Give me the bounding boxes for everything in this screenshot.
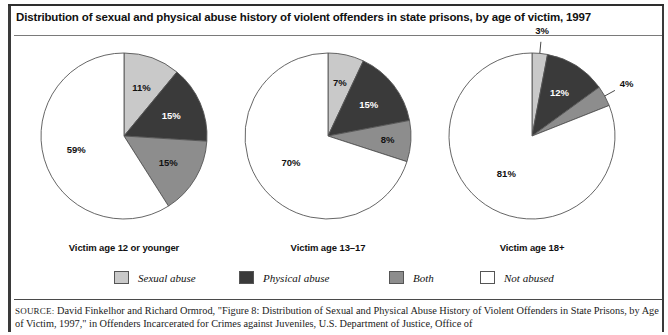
pie-svg-0: 11%15%15%59% [38, 50, 210, 222]
legend-label-both: Both [413, 272, 434, 284]
legend-swatch-not-abused [480, 271, 495, 284]
pie-panel-age-18-plus: 3%12%4%81% Victim age 18+ [432, 46, 632, 261]
pie-chart-age-13-17: 7%15%8%70% [242, 50, 414, 222]
frame-rule-top [8, 4, 664, 6]
pie-chart-age-12-or-younger: 11%15%15%59% [38, 50, 210, 222]
legend-item-physical-abuse: Physical abuse [239, 268, 329, 286]
figure-title: Distribution of sexual and physical abus… [16, 11, 656, 23]
pie-slice-label: 59% [67, 144, 87, 155]
pie-caption-age-13-17: Victim age 13–17 [228, 242, 428, 253]
pie-slice-label: 15% [162, 110, 182, 121]
frame-rule-right [662, 4, 664, 332]
legend-label-sexual-abuse: Sexual abuse [138, 272, 196, 284]
pie-slice-label: 11% [132, 82, 151, 93]
pie-chart-age-18-plus: 3%12%4%81% [446, 50, 618, 222]
pie-caption-age-18-plus: Victim age 18+ [432, 242, 632, 253]
label-leader-line [540, 42, 541, 54]
pie-slice-label: 8% [381, 134, 395, 145]
source-note: SOURCE: David Finkelhor and Richard Ormr… [15, 305, 660, 330]
pie-panel-age-12-or-younger: 11%15%15%59% Victim age 12 or younger [24, 46, 224, 261]
frame-rule-left [8, 4, 11, 332]
pie-panel-age-13-17: 7%15%8%70% Victim age 13–17 [228, 46, 428, 261]
pie-svg-2: 3%12%4%81% [446, 50, 618, 222]
pie-slice-label: 15% [359, 99, 379, 110]
legend: Sexual abuse Physical abuse Both Not abu… [14, 268, 662, 290]
legend-label-physical-abuse: Physical abuse [263, 272, 329, 284]
source-note-label: SOURCE: [15, 306, 54, 316]
legend-swatch-sexual-abuse [114, 271, 129, 284]
title-divider-rule [14, 35, 662, 36]
source-note-text: David Finkelhor and Richard Ormrod, "Fig… [15, 305, 659, 329]
figure-container: Distribution of sexual and physical abus… [0, 0, 668, 335]
legend-item-both: Both [389, 268, 434, 286]
legend-item-sexual-abuse: Sexual abuse [114, 268, 196, 286]
pie-slice-label: 70% [282, 157, 302, 168]
pie-slice-label: 4% [620, 78, 634, 89]
pie-svg-1: 7%15%8%70% [242, 50, 414, 222]
pie-slice-label: 15% [159, 157, 179, 168]
legend-swatch-both [389, 271, 404, 284]
pie-caption-age-12-or-younger: Victim age 12 or younger [24, 242, 224, 253]
source-divider-rule [14, 299, 662, 300]
pie-slice-label: 3% [535, 25, 549, 36]
legend-swatch-physical-abuse [239, 271, 254, 284]
pie-slice-label: 12% [550, 87, 570, 98]
pie-slice-label: 81% [497, 168, 517, 179]
pie-slice-label: 7% [333, 77, 347, 88]
label-leader-line [605, 90, 615, 96]
legend-label-not-abused: Not abused [504, 272, 554, 284]
legend-item-not-abused: Not abused [480, 268, 554, 286]
